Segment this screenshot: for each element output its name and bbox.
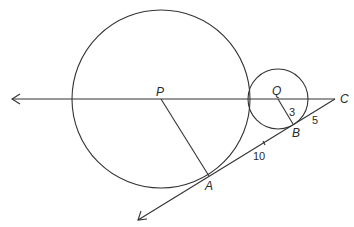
tangent-line-ca	[138, 99, 335, 220]
label-p: P	[156, 85, 164, 99]
radius-pa	[161, 99, 209, 176]
label-c: C	[340, 92, 349, 106]
label-a: A	[204, 179, 213, 193]
length-ab: 10	[253, 150, 265, 162]
length-qb: 3	[289, 106, 295, 118]
length-bc: 5	[312, 114, 318, 126]
label-b: B	[292, 126, 300, 140]
geometry-diagram: P Q C B A 3 5 10	[0, 0, 354, 227]
label-q: Q	[272, 84, 281, 98]
